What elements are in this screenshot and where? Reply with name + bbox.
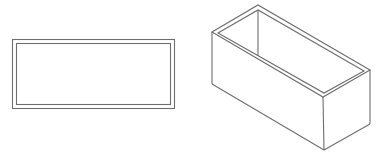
iso-bottom-right-edge <box>324 124 370 150</box>
top-view-inner-rim <box>17 44 171 105</box>
isometric-view <box>212 5 370 150</box>
top-view <box>13 40 175 109</box>
iso-bottom-left-edge <box>212 84 324 150</box>
iso-front-edge <box>323 97 324 150</box>
box-drawing <box>0 0 382 157</box>
iso-outer-rim <box>212 5 370 97</box>
top-view-outer-rim <box>13 40 175 109</box>
iso-inner-rim <box>218 10 364 93</box>
